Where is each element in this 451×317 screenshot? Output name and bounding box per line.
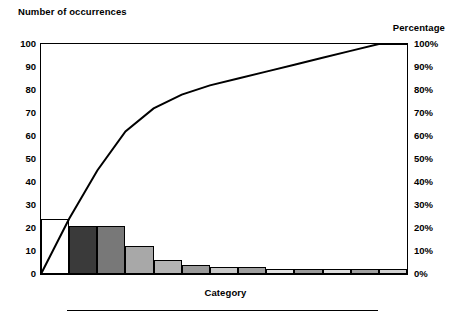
bars-container: [41, 44, 407, 274]
left-tick-label: 50: [25, 154, 36, 164]
bar: [294, 269, 322, 274]
right-tick-label: 40%: [414, 177, 433, 187]
bar: [323, 269, 351, 274]
bar: [182, 265, 210, 274]
bar: [210, 267, 238, 274]
pareto-chart: Number of occurrences Percentage 0102030…: [0, 0, 451, 317]
bar: [238, 267, 266, 274]
right-tick-label: 20%: [414, 223, 433, 233]
x-axis-title: Category: [0, 287, 451, 298]
left-tick-label: 80: [25, 85, 36, 95]
left-tick-label: 0: [31, 269, 36, 279]
left-tick-label: 30: [25, 200, 36, 210]
right-tick-label: 80%: [414, 85, 433, 95]
left-tick-label: 40: [25, 177, 36, 187]
bar: [69, 226, 97, 274]
bar: [97, 226, 125, 274]
y-axis-title: Number of occurrences: [18, 6, 127, 17]
right-tick-label: 10%: [414, 246, 433, 256]
y2-axis-title: Percentage: [393, 22, 445, 33]
right-tick-label: 30%: [414, 200, 433, 210]
left-tick-label: 60: [25, 131, 36, 141]
right-tick-label: 0%: [414, 269, 428, 279]
bar: [154, 260, 182, 274]
bar: [379, 269, 407, 274]
bottom-divider: [67, 310, 378, 311]
bar: [351, 269, 379, 274]
right-tick-label: 60%: [414, 131, 433, 141]
left-tick-label: 20: [25, 223, 36, 233]
bar: [125, 246, 153, 274]
right-tick-label: 90%: [414, 62, 433, 72]
left-tick-label: 10: [25, 246, 36, 256]
bar: [41, 219, 69, 274]
bar: [266, 269, 294, 274]
right-tick-label: 70%: [414, 108, 433, 118]
left-tick-label: 100: [20, 39, 36, 49]
right-tick-label: 50%: [414, 154, 433, 164]
right-tick-label: 100%: [414, 39, 438, 49]
left-tick-label: 70: [25, 108, 36, 118]
left-tick-label: 90: [25, 62, 36, 72]
